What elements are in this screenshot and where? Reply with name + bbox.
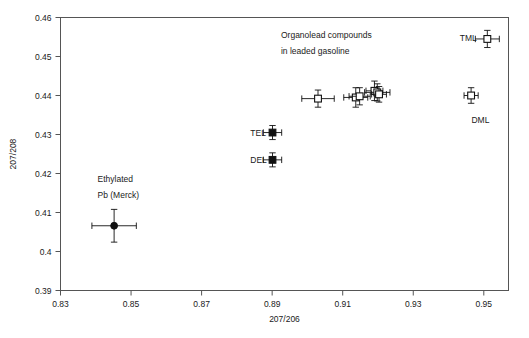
plot-canvas: 0.830.850.870.890.910.930.950.390.40.410…	[0, 0, 529, 338]
marker-open-square	[376, 91, 383, 98]
ethylated-note-line1: Ethylated	[98, 174, 134, 184]
y-tick-label: 0.46	[35, 13, 52, 23]
scatter-plot-figure: 0.830.850.870.890.910.930.950.390.40.410…	[0, 0, 529, 338]
x-tick-label: 0.95	[476, 299, 493, 309]
y-tick-label: 0.44	[35, 91, 52, 101]
y-axis-title: 207/208	[8, 138, 18, 169]
x-tick-label: 0.83	[52, 299, 69, 309]
organolead-note-line1: Organolead compounds	[281, 30, 372, 40]
y-tick-label: 0.4	[40, 247, 52, 257]
dml-label: DML	[471, 115, 489, 125]
tel-label: TEL	[250, 128, 266, 138]
data-point-gasoline-1	[302, 90, 334, 107]
y-tick-label: 0.39	[35, 286, 52, 296]
marker-filled-square	[269, 129, 276, 136]
x-tick-label: 0.89	[264, 299, 281, 309]
del-label: DEL	[250, 155, 267, 165]
data-point-DML	[464, 88, 478, 104]
marker-open-square	[484, 36, 491, 43]
organolead-note-line2: in leaded gasoline	[281, 46, 350, 56]
plot-frame	[61, 18, 509, 291]
data-point-TEL	[263, 126, 281, 140]
marker-open-square	[315, 95, 322, 102]
data-point-TML	[475, 30, 499, 47]
x-tick-label: 0.85	[123, 299, 140, 309]
y-tick-label: 0.41	[35, 208, 52, 218]
data-point-gasoline-3	[349, 88, 370, 105]
marker-filled-square	[269, 156, 276, 163]
y-tick-label: 0.43	[35, 130, 52, 140]
marker-filled-circle	[111, 222, 118, 229]
y-tick-label: 0.42	[35, 169, 52, 179]
ethylated-note-line2: Pb (Merck)	[98, 190, 140, 200]
marker-open-square	[468, 92, 475, 99]
marker-open-square	[356, 93, 363, 100]
tml-label: TML	[460, 33, 477, 43]
x-tick-label: 0.91	[334, 299, 351, 309]
x-tick-label: 0.87	[193, 299, 210, 309]
y-tick-label: 0.45	[35, 52, 52, 62]
x-axis-title: 207/206	[269, 314, 300, 324]
x-tick-label: 0.93	[405, 299, 422, 309]
data-point-Ethylated Pb (Merck)	[92, 209, 136, 242]
